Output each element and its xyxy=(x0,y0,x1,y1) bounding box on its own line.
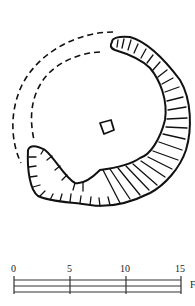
site-plan xyxy=(0,0,195,306)
scale-bar xyxy=(14,276,181,294)
dashed-inner-arc xyxy=(32,52,100,140)
scale-tick-15: 15 xyxy=(175,264,185,274)
scale-tick-0: 0 xyxy=(11,264,16,274)
central-square-feature xyxy=(100,120,114,134)
scale-tick-5: 5 xyxy=(67,264,72,274)
scale-unit-label: F xyxy=(190,280,195,290)
scale-tick-10: 10 xyxy=(120,264,130,274)
